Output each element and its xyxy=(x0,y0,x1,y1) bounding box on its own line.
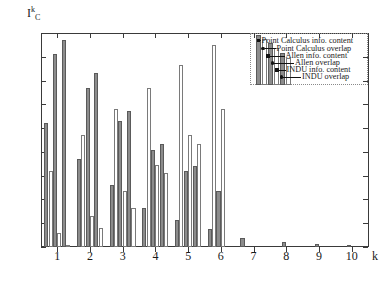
bar-chart: IkC 00.10.20.30.40.50.60.70.80.9 1234567… xyxy=(0,0,385,286)
bar xyxy=(282,242,286,247)
legend-leader-line xyxy=(265,48,276,49)
bar xyxy=(62,40,66,247)
bar xyxy=(66,245,70,247)
legend-leader-line xyxy=(270,56,285,57)
legend-leader-line xyxy=(283,77,301,78)
legend-item-label: INDU overlap xyxy=(301,73,349,81)
bar xyxy=(221,109,225,247)
bar xyxy=(94,73,98,247)
bar xyxy=(131,208,135,247)
bar xyxy=(347,245,351,247)
bar xyxy=(197,144,201,247)
legend-item[interactable]: INDU overlap xyxy=(280,73,350,81)
bar xyxy=(53,54,57,247)
bar xyxy=(164,173,168,247)
legend-leader-line xyxy=(274,63,294,64)
bar xyxy=(240,238,244,248)
bar xyxy=(315,244,319,247)
bar xyxy=(99,228,103,247)
legend-leader-line xyxy=(279,70,286,71)
x-axis-title: k xyxy=(372,250,378,262)
